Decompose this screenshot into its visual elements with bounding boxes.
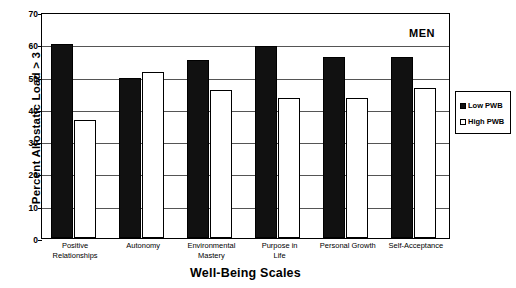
legend-item[interactable]: Low PWB [460,101,507,110]
bar-group [187,14,232,238]
legend-label: High PWB [468,117,504,126]
x-axis-tick-labels: PositiveRelationshipsAutonomyEnvironment… [41,241,450,267]
bar [414,88,436,238]
filled-square-icon [460,103,466,109]
y-tick-label: 40 [29,106,38,116]
bar [187,60,209,238]
bar [323,57,345,238]
y-tick-label: 20 [29,170,38,180]
bar-group [51,14,96,238]
bar [391,57,413,238]
y-tick-label: 50 [29,74,38,84]
x-axis-title: Well-Being Scales [41,266,450,280]
x-tick-label-line: Self-Acceptance [376,241,456,251]
open-square-icon [460,119,466,125]
bar-group [391,14,436,238]
bar [346,98,368,238]
legend: Low PWBHigh PWB [455,91,511,134]
bar [255,46,277,238]
y-tick-label: 60 [29,41,38,51]
bar [278,98,300,238]
bar-group [255,14,300,238]
chart-figure: Percent Allostatic Load > 3 010203040506… [0,0,516,288]
x-tick-label-line: Relationships [35,251,115,261]
bars-layer [42,14,449,238]
x-tick-label: Self-Acceptance [376,241,456,251]
y-tick-label: 70 [29,9,38,19]
bar [119,78,141,238]
y-tick-label: 10 [29,203,38,213]
y-tick-label: 30 [29,138,38,148]
x-tick-label-line: Life [240,251,320,261]
bar-group [323,14,368,238]
plot-area: 010203040506070 MEN [41,13,450,239]
legend-item[interactable]: High PWB [460,117,507,126]
bar [142,72,164,238]
bar-group [119,14,164,238]
men-annotation: MEN [409,27,435,39]
bar [51,44,73,238]
bar [210,90,232,239]
bar [74,120,96,238]
legend-label: Low PWB [468,101,503,110]
